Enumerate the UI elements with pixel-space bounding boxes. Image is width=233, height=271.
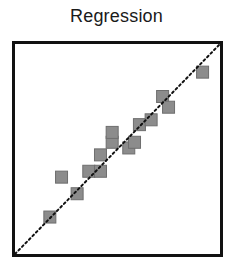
data-point [145, 114, 157, 126]
plot-area [12, 41, 223, 257]
data-point [94, 149, 106, 161]
data-point [56, 171, 68, 183]
data-point [133, 119, 145, 131]
data-point [157, 91, 169, 103]
data-point [163, 101, 175, 113]
regression-line [15, 44, 220, 254]
scatter-plot [15, 44, 220, 254]
data-point [129, 136, 141, 148]
data-point [197, 66, 209, 78]
data-point [106, 126, 118, 138]
chart-title: Regression [0, 6, 233, 27]
